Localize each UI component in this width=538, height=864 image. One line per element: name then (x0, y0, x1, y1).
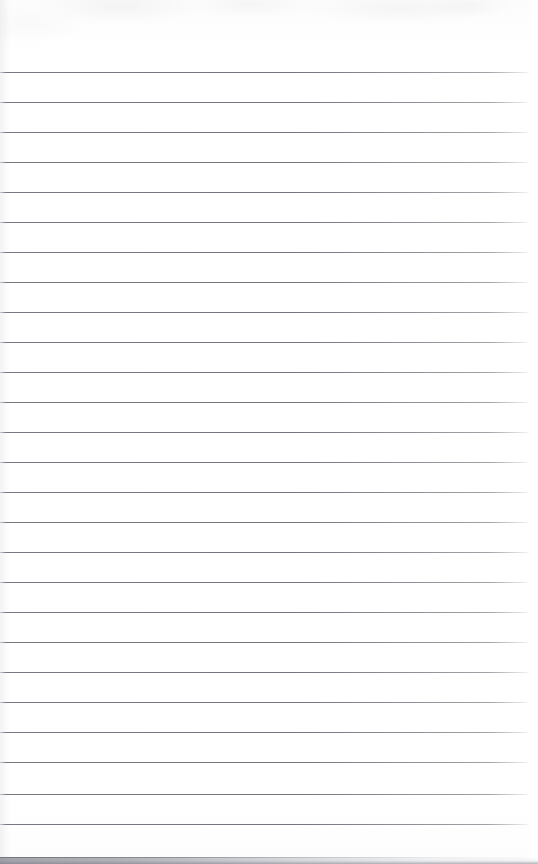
lined-paper-page (0, 0, 538, 864)
writing-area[interactable] (0, 0, 538, 864)
